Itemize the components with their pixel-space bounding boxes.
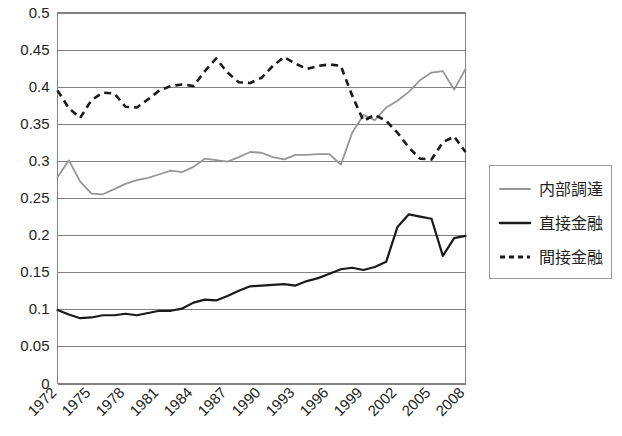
chart-legend: 内部調達直接金融間接金融	[490, 166, 612, 279]
y-tick-label: 0.4	[29, 78, 50, 95]
y-tick-label: 0.15	[20, 263, 49, 280]
y-tick-label: 0.35	[20, 115, 49, 132]
y-tick-label: 0.1	[29, 300, 50, 317]
y-tick-label: 0.2	[29, 226, 50, 243]
legend-label-3: 間接金融	[539, 248, 603, 267]
legend-label-1: 内部調達	[539, 180, 603, 199]
line-chart: 00.050.10.150.20.250.30.350.40.450.5 197…	[0, 0, 622, 436]
y-tick-label: 0.45	[20, 41, 49, 58]
y-tick-label: 0.05	[20, 337, 49, 354]
y-tick-label: 0.25	[20, 189, 49, 206]
y-tick-label: 0.3	[29, 152, 50, 169]
y-tick-label: 0.5	[29, 4, 50, 21]
legend-label-2: 直接金融	[539, 214, 603, 233]
chart-canvas: 00.050.10.150.20.250.30.350.40.450.5 197…	[0, 0, 622, 436]
